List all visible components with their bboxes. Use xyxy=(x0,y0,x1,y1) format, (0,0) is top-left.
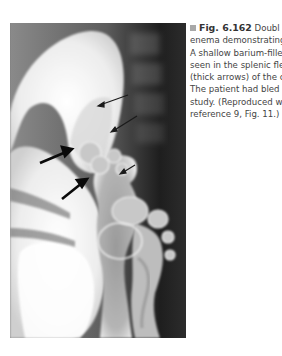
square-bullet-icon xyxy=(190,25,196,31)
caption-line: The patient had bled xyxy=(190,83,282,95)
caption-line: seen in the splenic fle xyxy=(190,59,282,71)
barium-enema-xray xyxy=(10,23,186,338)
caption-line: A shallow barium-fillec xyxy=(190,47,282,59)
caption-line: Doubl xyxy=(255,23,280,33)
figure-caption: Fig. 6.162 Doubl enema demonstrating A s… xyxy=(190,22,282,120)
radiograph-figure xyxy=(10,23,186,338)
caption-line: (thick arrows) of the c xyxy=(190,71,282,83)
caption-first-line: Fig. 6.162 Doubl xyxy=(190,22,282,34)
caption-line: reference 9, Fig. 11.) xyxy=(190,108,282,120)
caption-line: study. (Reproduced w xyxy=(190,96,282,108)
figure-label: Fig. 6.162 xyxy=(199,22,252,33)
caption-line: enema demonstrating xyxy=(190,34,282,46)
